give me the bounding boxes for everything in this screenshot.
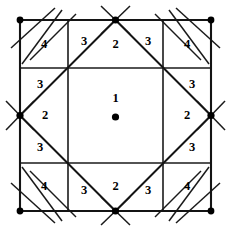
dot-center [112, 113, 119, 120]
region-label-center: 1 [112, 91, 118, 105]
region-label-bottom-right-3: 3 [145, 183, 151, 197]
geometric-figure-canvas: 12222333333334444 [0, 0, 235, 233]
region-label-right-top-3: 3 [189, 77, 195, 91]
region-label-corner-bl-4: 4 [41, 179, 48, 193]
region-label-corner-tr-4: 4 [184, 37, 191, 51]
region-label-left-top-3: 3 [37, 77, 43, 91]
region-label-left-bottom-3: 3 [37, 140, 43, 154]
region-label-left-inner: 2 [42, 108, 48, 122]
figure-svg: 12222333333334444 [0, 0, 235, 233]
region-label-bottom-left-3: 3 [81, 183, 87, 197]
dot-corner-tr [208, 17, 215, 24]
region-label-corner-br-4: 4 [184, 179, 191, 193]
region-label-top-left-3: 3 [81, 34, 87, 48]
region-label-bottom-inner: 2 [112, 179, 118, 193]
region-label-top-inner: 2 [112, 37, 118, 51]
dot-corner-br [208, 208, 215, 215]
dot-corner-bl [17, 208, 24, 215]
dot-mid-right [207, 112, 214, 119]
region-label-right-bottom-3: 3 [189, 140, 195, 154]
dot-corner-tl [17, 17, 24, 24]
region-label-top-right-3: 3 [145, 34, 151, 48]
dot-mid-left [16, 112, 23, 119]
region-label-corner-tl-4: 4 [41, 37, 48, 51]
region-label-right-inner: 2 [184, 108, 190, 122]
dot-mid-top [112, 16, 119, 23]
dot-mid-bottom [112, 207, 119, 214]
